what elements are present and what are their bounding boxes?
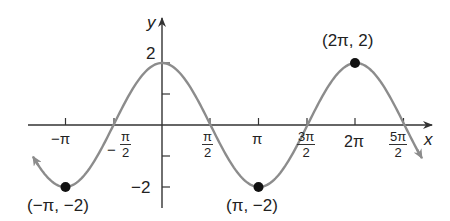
point-label-pi-neg2: (π, −2) bbox=[226, 196, 278, 216]
x-tick-label-2pi: 2π bbox=[344, 134, 364, 150]
point-2pi-2 bbox=[350, 58, 360, 68]
y-axis-label: y bbox=[147, 13, 156, 33]
x-tick-label-neg-pi-half-sign: − bbox=[107, 142, 116, 157]
curve-left-arrow-icon bbox=[33, 157, 38, 165]
x-tick-label-pi: π bbox=[252, 131, 262, 146]
x-axis-label: x bbox=[424, 130, 433, 150]
y-tick-label-2: 2 bbox=[146, 45, 155, 62]
x-tick-label-neg-pi: −π bbox=[51, 131, 70, 146]
x-tick-label-5pi-half: 5π 2 bbox=[389, 130, 407, 159]
fraction-numerator: π bbox=[202, 130, 213, 145]
fraction-numerator: 5π bbox=[389, 130, 407, 145]
point-label-2pi-2: (2π, 2) bbox=[322, 31, 373, 51]
point-label-neg-pi-neg2: (−π, −2) bbox=[27, 196, 89, 216]
fraction-numerator: π bbox=[120, 130, 131, 145]
fraction-denominator: 2 bbox=[394, 145, 401, 159]
fraction-numerator: 3π bbox=[297, 130, 315, 145]
cosine-graph bbox=[0, 0, 450, 221]
point-neg-pi-neg2 bbox=[61, 182, 71, 192]
fraction-denominator: 2 bbox=[302, 145, 309, 159]
fraction-denominator: 2 bbox=[122, 145, 129, 159]
point-pi-neg2 bbox=[254, 182, 264, 192]
x-tick-label-pi-half: π 2 bbox=[202, 130, 213, 159]
y-tick-label-neg2: −2 bbox=[131, 179, 150, 196]
x-tick-label-3pi-half: 3π 2 bbox=[297, 130, 315, 159]
curve-right-arrow-icon bbox=[417, 150, 422, 159]
fraction-denominator: 2 bbox=[204, 145, 211, 159]
x-tick-label-neg-pi-half: π 2 bbox=[120, 130, 131, 159]
